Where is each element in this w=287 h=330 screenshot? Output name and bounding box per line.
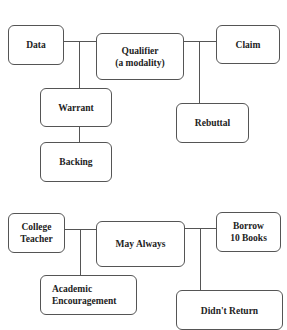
node-label: Warrant — [58, 102, 93, 114]
node-data: Data — [8, 25, 64, 65]
connector-to-rebuttal — [200, 228, 201, 290]
node-label: Data — [26, 39, 46, 51]
node-label: Backing — [59, 156, 92, 168]
node-label: Claim — [236, 39, 261, 51]
node-label: Academic Encouragement — [52, 283, 116, 307]
node-label: Rebuttal — [195, 117, 230, 129]
node-label: May Always — [116, 238, 166, 250]
node-borrow-10-books: Borrow 10 Books — [216, 212, 281, 252]
node-label: Borrow 10 Books — [230, 220, 267, 244]
node-didnt-return: Didn't Return — [176, 290, 283, 330]
node-label: Qualifier (a modality) — [115, 45, 164, 69]
node-backing: Backing — [40, 142, 112, 182]
connector-to-warrant — [79, 41, 80, 88]
connector-to-warrant — [80, 229, 81, 275]
node-warrant: Warrant — [40, 88, 112, 127]
node-college-teacher: College Teacher — [8, 213, 65, 253]
node-academic-encouragement: Academic Encouragement — [40, 275, 137, 315]
node-label: College Teacher — [20, 221, 52, 245]
connector-to-rebuttal — [199, 41, 200, 103]
node-qualifier: Qualifier (a modality) — [96, 33, 184, 80]
node-rebuttal: Rebuttal — [176, 103, 249, 143]
node-label: Didn't Return — [201, 305, 258, 317]
node-may-always: May Always — [96, 221, 185, 267]
node-claim: Claim — [216, 25, 280, 64]
connector-warrant-backing — [79, 126, 80, 142]
